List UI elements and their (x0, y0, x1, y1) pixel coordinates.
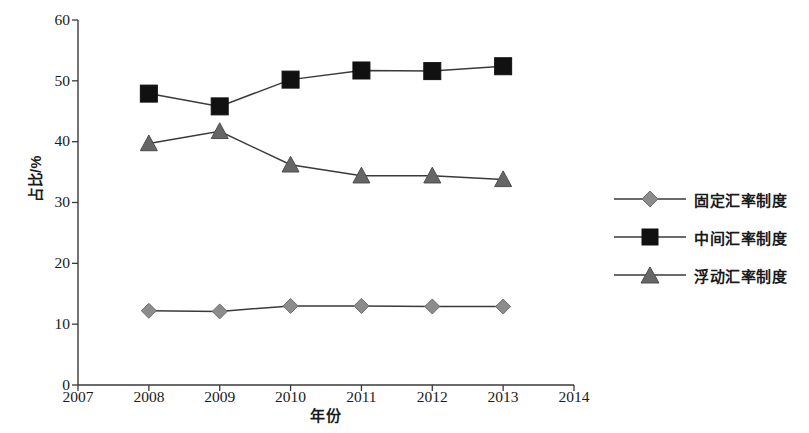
series-square (140, 58, 511, 115)
x-tick-label-2011: 2011 (346, 389, 376, 405)
data-point (211, 123, 228, 139)
chart-legend: 固定汇率制度 中间汇率制度 浮动汇率制度 (612, 180, 807, 294)
y-tick-label-60: 60 (32, 12, 70, 28)
data-point (282, 71, 299, 88)
data-point (495, 58, 512, 75)
data-point (282, 156, 299, 172)
series-diamond (141, 298, 510, 318)
legend-label-intermediate: 中间汇率制度 (688, 227, 787, 248)
data-point (353, 62, 370, 79)
x-axis-title: 年份 (78, 404, 574, 425)
y-axis-title: 占比/% (24, 139, 45, 219)
x-tick-label-2013: 2013 (488, 389, 519, 405)
data-point (425, 299, 440, 314)
legend-item-floating: 浮动汇率制度 (612, 256, 807, 294)
y-tick-label-20: 20 (32, 255, 70, 271)
x-tick-label-2008: 2008 (133, 389, 164, 405)
data-point (283, 298, 298, 313)
legend-item-fixed: 固定汇率制度 (612, 180, 807, 218)
series-triangle (140, 123, 511, 187)
y-tick-label-50: 50 (32, 73, 70, 89)
x-tick-label-2012: 2012 (417, 389, 448, 405)
diamond-marker-icon (612, 189, 688, 209)
x-tick-label-2007: 2007 (63, 389, 94, 405)
chart-figure: 60 50 40 30 20 10 0 2007 2008 2009 2010 … (0, 0, 809, 433)
triangle-marker-icon (612, 265, 688, 285)
plot-area: 60 50 40 30 20 10 0 2007 2008 2009 2010 … (0, 0, 600, 400)
data-point (212, 304, 227, 319)
legend-label-fixed: 固定汇率制度 (688, 189, 787, 210)
y-tick-label-10: 10 (32, 316, 70, 332)
data-point (141, 303, 156, 318)
x-tick-label-2009: 2009 (204, 389, 235, 405)
legend-item-intermediate: 中间汇率制度 (612, 218, 807, 256)
x-tick-label-2014: 2014 (559, 389, 590, 405)
data-point (140, 85, 157, 102)
data-point (211, 98, 228, 115)
data-point (354, 298, 369, 313)
legend-label-floating: 浮动汇率制度 (688, 265, 787, 286)
square-marker-icon (612, 227, 688, 247)
data-point (496, 299, 511, 314)
x-tick-label-2010: 2010 (275, 389, 306, 405)
chart-canvas (0, 0, 600, 400)
data-point (424, 63, 441, 80)
